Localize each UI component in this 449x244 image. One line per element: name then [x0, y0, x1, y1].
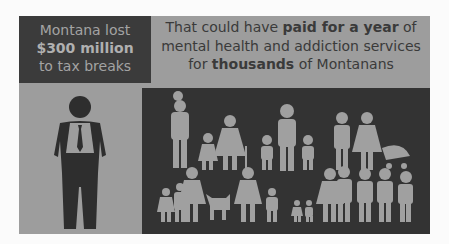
callout-line-3: to tax breaks — [19, 57, 151, 75]
headline: That could have paid for a year of menta… — [152, 18, 430, 84]
callout-amount: $300 million — [36, 40, 133, 56]
loss-callout: Montana lost $300 million to tax breaks — [19, 16, 151, 83]
families-crowd-icon — [142, 88, 430, 234]
businessman-icon — [50, 95, 110, 230]
callout-line-1: Montana lost — [19, 21, 151, 39]
families-panel — [142, 88, 430, 234]
